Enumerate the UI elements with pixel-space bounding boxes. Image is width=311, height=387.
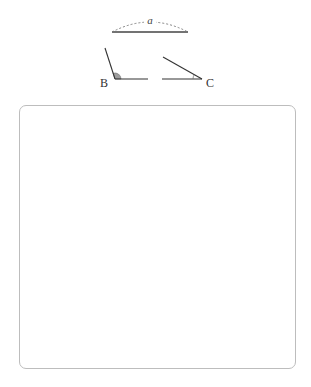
angle-b: B <box>100 48 148 90</box>
segment-a: a <box>112 14 188 32</box>
construction-figure: a B C <box>0 0 311 100</box>
angle-c-label: C <box>206 76 214 90</box>
angle-c: C <box>162 57 214 90</box>
segment-label: a <box>147 14 153 26</box>
angle-b-label: B <box>100 76 108 90</box>
answer-box[interactable] <box>19 105 296 369</box>
figure-svg: a B C <box>0 0 311 100</box>
